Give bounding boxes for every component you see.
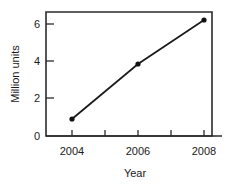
line-chart: 6 4 2 0 2004 2006 2008 Year Millio [0,0,245,188]
y-tick-label-6: 6 [34,18,40,30]
data-point-2006 [135,61,140,66]
y-axis-tick-labels: 6 4 2 0 [34,18,40,142]
x-tick-label-2004: 2004 [60,145,84,157]
x-axis-tick-labels: 2004 2006 2008 [60,145,216,157]
x-tick-label-2006: 2006 [126,145,150,157]
y-tick-label-4: 4 [34,55,40,67]
x-axis-ticks [72,130,204,136]
x-tick-label-2008: 2008 [192,145,216,157]
data-point-2008 [201,17,206,22]
data-point-2004 [69,116,74,121]
chart-container: 6 4 2 0 2004 2006 2008 Year Millio [0,0,245,188]
data-series-million-units [69,17,206,121]
y-tick-label-0: 0 [34,130,40,142]
y-tick-label-2: 2 [34,92,40,104]
x-axis-title: Year [124,167,147,179]
y-axis-title: Million units [9,45,21,103]
y-axis-ticks [46,24,54,98]
